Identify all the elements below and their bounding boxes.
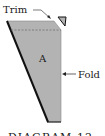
- trim-label: Trim: [3, 4, 28, 15]
- trim-triangle: [58, 17, 66, 26]
- fold-diagram: Trim A Fold DIAGRAM 12: [0, 0, 105, 136]
- fold-arrow-icon: [62, 72, 66, 76]
- region-label: A: [38, 53, 47, 64]
- fold-label: Fold: [78, 69, 101, 80]
- panel-a: [7, 21, 61, 122]
- caption: DIAGRAM 12: [8, 131, 93, 136]
